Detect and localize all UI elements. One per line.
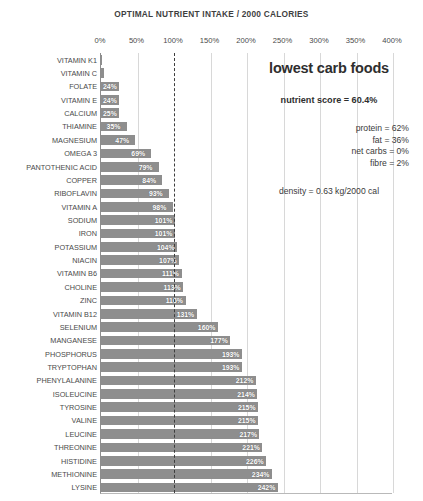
bar-value-label: 93%: [149, 190, 163, 197]
category-label: TRYPTOPHAN: [47, 363, 97, 372]
bar-value-label: 84%: [142, 176, 156, 183]
bar-value-label: 226%: [246, 457, 264, 464]
bar-row: LEUCINE217%: [101, 427, 392, 440]
bar-value-label: 215%: [238, 404, 256, 411]
bar-value-label: 177%: [210, 337, 228, 344]
info-panel: lowest carb foods nutrient score = 60.4%…: [243, 60, 415, 196]
x-tick-label: 100%: [163, 36, 182, 45]
bar-value-label: 24%: [103, 83, 117, 90]
x-axis-tick-labels: 0%50%100%150%200%250%300%350%400%: [0, 36, 423, 48]
x-tick-label: 300%: [309, 36, 328, 45]
bar-row: ISOLEUCINE214%: [101, 387, 392, 400]
bar: [101, 362, 242, 372]
category-label: CALCIUM: [64, 109, 97, 118]
bar-value-label: 234%: [252, 470, 270, 477]
bar-value-label: 101%: [155, 230, 173, 237]
category-label: NIACIN: [72, 256, 97, 265]
bar-value-label: 35%: [107, 123, 121, 130]
bar: [101, 389, 257, 399]
category-label: THIAMINE: [62, 122, 97, 131]
bar-value-label: 111%: [162, 270, 179, 277]
category-label: LYSINE: [72, 483, 97, 492]
bar-row: PHENYLALANINE212%: [101, 374, 392, 387]
bar-row: HISTIDINE226%: [101, 454, 392, 467]
bar: [101, 416, 258, 426]
category-label: MANGANESE: [50, 336, 97, 345]
bar-row: VALINE215%: [101, 414, 392, 427]
nutrient-intake-chart: OPTIMAL NUTRIENT INTAKE / 2000 CALORIES …: [0, 0, 423, 501]
bar: [101, 55, 102, 65]
category-label: ISOLEUCINE: [53, 389, 97, 398]
bar-row: TYROSINE215%: [101, 400, 392, 413]
category-label: METHIONINE: [51, 469, 97, 478]
category-label: SODIUM: [68, 216, 97, 225]
category-label: THREONINE: [54, 443, 97, 452]
bar-value-label: 193%: [222, 350, 240, 357]
x-tick-label: 400%: [382, 36, 401, 45]
bar-value-label: 215%: [238, 417, 256, 424]
bar: [101, 68, 104, 78]
category-label: COPPER: [66, 175, 97, 184]
category-label: PHOSPHORUS: [45, 349, 97, 358]
category-label: PANTOTHENIC ACID: [26, 162, 97, 171]
bar-value-label: 104%: [157, 243, 175, 250]
info-heading: lowest carb foods: [243, 60, 415, 76]
category-label: VITAMIN E: [61, 95, 97, 104]
x-tick-label: 200%: [236, 36, 255, 45]
category-label: RIBOFLAVIN: [54, 189, 97, 198]
bar-value-label: 221%: [242, 444, 260, 451]
bar-value-label: 25%: [103, 110, 117, 117]
bar: [101, 443, 262, 453]
bar: [101, 469, 272, 479]
macro-item: fibre = 2%: [243, 158, 409, 170]
category-label: CHOLINE: [65, 282, 97, 291]
bar: [101, 456, 266, 466]
category-label: ZINC: [80, 296, 97, 305]
bar: [101, 402, 258, 412]
bar-value-label: 79%: [139, 163, 153, 170]
bar-value-label: 131%: [177, 310, 195, 317]
category-label: VITAMIN A: [61, 202, 97, 211]
category-label: FOLATE: [69, 82, 97, 91]
reference-line-100: [174, 53, 175, 493]
x-tick-label: 0%: [95, 36, 106, 45]
bar-row: METHIONINE234%: [101, 467, 392, 480]
category-label: OMEGA 3: [64, 149, 97, 158]
category-label: TYROSINE: [60, 403, 97, 412]
bar-value-label: 212%: [236, 377, 254, 384]
bar: [101, 349, 242, 359]
bar-value-label: 47%: [115, 136, 129, 143]
x-tick-label: 50%: [129, 36, 144, 45]
category-label: VITAMIN B12: [53, 309, 97, 318]
category-label: VITAMIN K1: [57, 55, 97, 64]
bar-value-label: 24%: [103, 96, 117, 103]
bar: [101, 429, 259, 439]
bar-value-label: 69%: [131, 150, 145, 157]
category-label: POTASSIUM: [55, 242, 97, 251]
x-tick-label: 350%: [346, 36, 365, 45]
category-label: SELENIUM: [60, 322, 97, 331]
bar-value-label: 242%: [258, 484, 276, 491]
density-value: density = 0.63 kg/2000 cal: [243, 186, 415, 196]
chart-title: OPTIMAL NUTRIENT INTAKE / 2000 CALORIES: [0, 9, 423, 19]
bar-value-label: 113%: [163, 283, 180, 290]
bar-value-label: 217%: [239, 430, 257, 437]
category-label: IRON: [79, 229, 97, 238]
bar-row: LYSINE242%: [101, 481, 392, 494]
category-label: PHENYLALANINE: [37, 376, 97, 385]
category-label: LEUCINE: [65, 429, 97, 438]
x-tick-label: 150%: [200, 36, 219, 45]
bar: [101, 483, 278, 493]
bar-value-label: 214%: [237, 390, 255, 397]
nutrient-score: nutrient score = 60.4%: [243, 95, 415, 105]
bar-value-label: 98%: [153, 203, 167, 210]
bar-value-label: 160%: [198, 323, 216, 330]
category-label: VITAMIN B6: [57, 269, 97, 278]
bar-row: THREONINE221%: [101, 441, 392, 454]
category-label: HISTIDINE: [61, 456, 97, 465]
x-tick-label: 250%: [273, 36, 292, 45]
category-label: VITAMIN C: [61, 69, 97, 78]
macro-list: protein = 62%fat = 36%net carbs = 0%fibr…: [243, 123, 415, 169]
bar-value-label: 193%: [222, 364, 240, 371]
bar-value-label: 101%: [155, 217, 173, 224]
